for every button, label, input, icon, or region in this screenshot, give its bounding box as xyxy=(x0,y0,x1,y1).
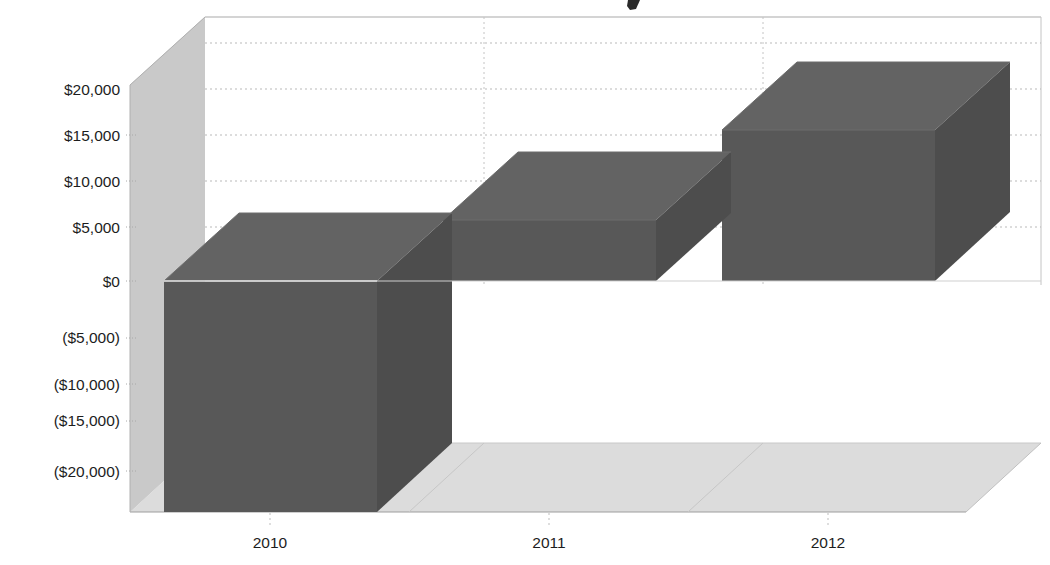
column-chart-3d: $20,000 $15,000 $10,000 $5,000 $0 ($5,00… xyxy=(0,0,1050,565)
x-tick-label-2011: 2011 xyxy=(532,534,565,551)
y-tick-label: $5,000 xyxy=(73,219,121,236)
y-tick-label: $15,000 xyxy=(64,127,120,144)
bar-2010[interactable] xyxy=(164,213,452,512)
y-tick-label: ($5,000) xyxy=(62,329,120,346)
y-tick-label: $10,000 xyxy=(64,173,120,190)
x-axis-labels: 2010 2011 2012 xyxy=(253,534,845,551)
y-tick-label: ($20,000) xyxy=(54,463,120,480)
y-tick-label: ($10,000) xyxy=(54,376,120,393)
bar-2012[interactable] xyxy=(722,62,1010,281)
x-axis-ticks xyxy=(270,513,828,526)
y-axis-labels: $20,000 $15,000 $10,000 $5,000 $0 ($5,00… xyxy=(54,81,121,480)
y-tick-label: $20,000 xyxy=(64,81,120,98)
chart-container: $20,000 $15,000 $10,000 $5,000 $0 ($5,00… xyxy=(0,0,1050,565)
y-tick-label: ($15,000) xyxy=(54,412,120,429)
x-tick-label-2012: 2012 xyxy=(811,534,845,551)
x-tick-label-2010: 2010 xyxy=(253,534,288,551)
chart-title-clipped xyxy=(627,0,640,10)
y-tick-label: $0 xyxy=(103,273,121,290)
